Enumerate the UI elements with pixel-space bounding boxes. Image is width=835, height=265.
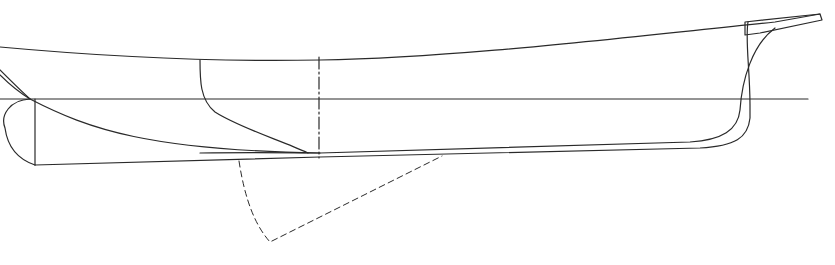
rabbet-line xyxy=(200,28,775,153)
hull-drawing-canvas xyxy=(0,0,835,265)
hull-profile-svg xyxy=(0,0,835,265)
stem-profile xyxy=(0,70,35,165)
centerboard-outline xyxy=(239,156,442,242)
sheer-line xyxy=(0,14,820,60)
bilge-diagonal xyxy=(200,60,308,153)
buttock-curve xyxy=(30,99,320,153)
